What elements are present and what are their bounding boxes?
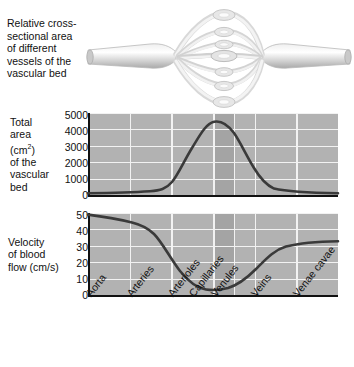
vessel-diagram-panel: Relative cross- sectional area of differ… [0,0,354,110]
total-area-x-axis [88,195,338,197]
vascular-bed-branching-diagram [86,2,352,108]
ytick-5000: 5000 [65,110,88,121]
ytick-1000: 1000 [65,174,88,185]
venae-cavae-vessel [262,44,350,68]
area-label-line-2: area [10,128,62,140]
ytick-50: 50 [76,210,88,221]
total-area-y-tick-labels: 5000 4000 3000 2000 1000 0 [57,110,88,202]
vessel-diagram-caption: Relative cross- sectional area of differ… [7,17,87,80]
venae-cavae-lumen-opening [345,50,351,64]
x-axis-category-labels: Aorta Arteries Arterioles Capillaries Ve… [0,292,354,367]
ytick-10: 10 [76,274,88,285]
caption-line-2: sectional area [7,30,87,43]
caption-line-5: vascular bed [7,67,87,80]
ytick-3000: 3000 [65,142,88,153]
total-area-chart: Total area (cm2) of the vascular bed 500… [0,110,354,210]
caption-line-4: vessels of the [7,55,87,68]
area-label-line-3: (cm2) [10,141,62,156]
ytick-20: 20 [76,258,88,269]
ytick-40: 40 [76,226,88,237]
area-label-line-1: Total [10,116,62,128]
total-area-curve [88,113,338,195]
total-area-axis-label: Total area (cm2) of the vascular bed [10,116,62,193]
area-label-line-4: of the [10,156,62,168]
ytick-30: 30 [76,242,88,253]
aorta-vessel [88,44,176,68]
caption-line-1: Relative cross- [7,17,87,30]
area-label-line-5: vascular [10,168,62,180]
caption-line-3: of different [7,42,87,55]
total-area-plot-area [88,113,338,195]
capillary-segments [211,10,237,108]
aorta-lumen-opening [87,50,93,64]
ytick-2000: 2000 [65,158,88,169]
ytick-4000: 4000 [65,126,88,137]
velocity-y-tick-labels: 50 40 30 20 10 0 [57,210,88,302]
area-label-line-6: bed [10,181,62,193]
